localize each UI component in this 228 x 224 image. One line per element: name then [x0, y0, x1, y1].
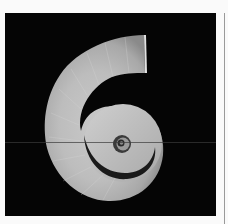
shell-photo — [5, 13, 216, 216]
side-divider — [224, 13, 225, 224]
scan-artifact-line — [5, 142, 216, 143]
spiral-shell-illustration — [5, 13, 216, 216]
